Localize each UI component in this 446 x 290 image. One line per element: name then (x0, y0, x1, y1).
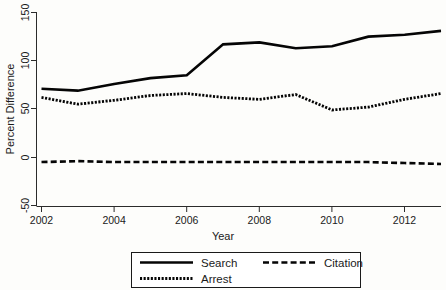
x-axis-title: Year (212, 230, 235, 242)
x-tick-label-2010: 2010 (320, 214, 344, 226)
y-axis-tick-labels: 150 100 50 0 -50 (19, 4, 31, 214)
series-line-search (42, 31, 442, 91)
chart-container: 150 100 50 0 -50 Percent Difference 2002… (0, 0, 446, 290)
y-axis-title: Percent Difference (4, 64, 16, 155)
legend-label-search: Search (201, 257, 237, 269)
y-tick-label-0: 0 (19, 154, 31, 160)
x-axis-tick-labels: 2002 2004 2006 2008 2010 2012 (30, 214, 417, 226)
series-line-citation (42, 161, 442, 164)
y-tick-label-100: 100 (19, 52, 31, 70)
y-tick-label-50: 50 (19, 103, 31, 115)
series-line-arrest (42, 94, 442, 110)
y-tick-label-neg50: -50 (19, 198, 31, 213)
x-tick-label-2006: 2006 (175, 214, 199, 226)
x-tick-label-2004: 2004 (102, 214, 126, 226)
percent-difference-line-chart: 150 100 50 0 -50 Percent Difference 2002… (0, 0, 446, 290)
y-tick-label-150: 150 (19, 4, 31, 22)
x-axis-ticks (42, 207, 405, 213)
series-group (42, 31, 442, 164)
legend-label-citation: Citation (324, 257, 363, 269)
x-tick-label-2008: 2008 (248, 214, 272, 226)
y-axis-ticks (31, 13, 37, 206)
chart-legend: Search Citation Arrest (132, 253, 364, 288)
legend-label-arrest: Arrest (201, 273, 232, 285)
x-tick-label-2012: 2012 (393, 214, 417, 226)
x-tick-label-2002: 2002 (30, 214, 54, 226)
